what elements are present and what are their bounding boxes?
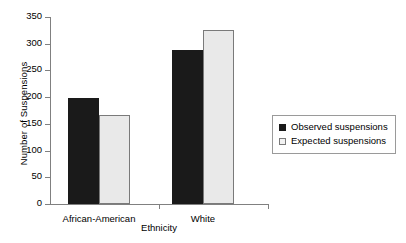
legend-label-observed: Observed suspensions [291,120,388,134]
y-tick: 250 [45,70,50,71]
y-tick-label: 0 [37,197,42,208]
legend-item-observed: Observed suspensions [279,120,388,134]
y-tick-label: 300 [26,37,42,48]
legend-label-expected: Expected suspensions [291,134,386,148]
y-tick: 100 [45,151,50,152]
x-axis-end-tick [268,204,269,209]
y-tick-label: 200 [26,90,42,101]
x-axis-title: Ethnicity [50,222,268,233]
y-tick-label: 100 [26,144,42,155]
legend: Observed suspensions Expected suspension… [272,115,396,154]
bar-observed [172,50,203,204]
outlined-square-icon [279,138,286,145]
y-tick: 350 [45,17,50,18]
y-tick: 300 [45,44,50,45]
y-tick-label: 350 [26,10,42,21]
y-tick: 150 [45,124,50,125]
x-tick [159,204,160,209]
plot-area: 050100150200250300350 African-AmericanWh… [50,17,268,204]
bar-chart: Number of Suspensions 050100150200250300… [0,0,406,243]
y-tick-label: 50 [31,170,42,181]
y-tick-label: 250 [26,63,42,74]
legend-item-expected: Expected suspensions [279,134,388,148]
y-tick: 0 [45,204,50,205]
y-tick-label: 150 [26,117,42,128]
y-axis-line [50,17,51,205]
bar-expected [203,30,234,204]
bar-expected [99,115,130,204]
y-tick: 200 [45,97,50,98]
y-tick: 50 [45,177,50,178]
filled-square-icon [279,124,286,131]
bar-observed [68,98,99,204]
